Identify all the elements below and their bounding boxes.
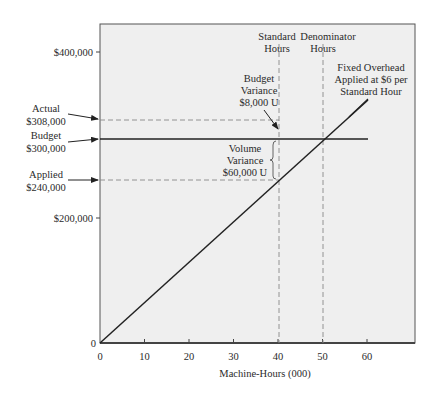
x-tick-label: 60 — [362, 351, 373, 362]
x-tick-label: 20 — [184, 351, 195, 362]
volume-variance-label: Variance — [227, 155, 264, 166]
y-tick-label: $400,000 — [54, 47, 93, 58]
actual-label: Actual — [32, 103, 60, 114]
x-tick-label: 30 — [228, 351, 239, 362]
applied-overhead-label: Applied at $6 per — [334, 74, 408, 85]
x-axis-label: Machine-Hours (000) — [219, 368, 311, 380]
standard-hours-label: Hours — [264, 43, 290, 54]
actual-value: $308,000 — [26, 116, 65, 127]
volume-variance-value: $60,000 U — [223, 167, 268, 178]
denominator-hours-label: Hours — [310, 43, 336, 54]
budget-value: $300,000 — [26, 143, 65, 154]
x-tick-label: 40 — [273, 351, 284, 362]
budget-variance-value: $8,000 U — [239, 97, 279, 108]
x-tick-label: 0 — [97, 351, 102, 362]
budget-variance-label: Budget — [244, 73, 274, 84]
standard-hours-label: Standard — [258, 31, 296, 42]
applied-label: Applied — [29, 169, 64, 180]
budget-variance-label: Variance — [241, 85, 278, 96]
applied-overhead-label: Standard Hour — [340, 86, 402, 97]
chart: $400,000 $200,000 0 0 10 20 30 40 50 60 … — [0, 0, 440, 396]
denominator-hours-label: Denominator — [300, 31, 356, 42]
x-tick-label: 50 — [317, 351, 328, 362]
applied-value: $240,000 — [26, 182, 65, 193]
x-tick-label: 10 — [139, 351, 150, 362]
volume-variance-label: Volume — [229, 143, 262, 154]
applied-overhead-label: Fixed Overhead — [337, 62, 405, 73]
arrow-icon — [68, 139, 98, 142]
y-tick-label: 0 — [91, 338, 96, 349]
y-tick-label: $200,000 — [54, 213, 93, 224]
budget-label: Budget — [31, 130, 61, 141]
arrow-icon — [68, 114, 98, 119]
